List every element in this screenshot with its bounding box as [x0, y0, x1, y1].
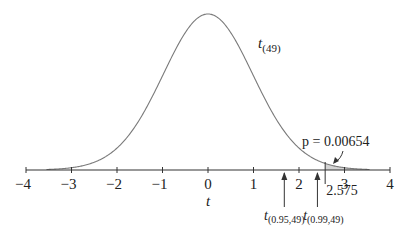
- arrowhead-icon: [314, 172, 320, 180]
- x-tick-label: 1: [250, 176, 258, 192]
- p-value-label: p = 0.00654: [302, 134, 369, 149]
- quantile-annotation-2: t(0.99,49): [303, 172, 344, 226]
- svg-text:t(0.99,49): t(0.99,49): [303, 208, 344, 226]
- critical-value-label: 2.575: [326, 183, 358, 198]
- arrowhead-icon: [281, 172, 287, 180]
- x-tick-label: −4: [15, 176, 31, 192]
- p-value-annotation: p = 0.00654: [302, 134, 369, 164]
- x-tick-label: 0: [204, 176, 212, 192]
- svg-text:t(49): t(49): [258, 35, 281, 55]
- arrowhead-icon: [333, 157, 339, 164]
- quantile-label-sub: (0.95,49): [268, 214, 305, 226]
- x-tick-label: −2: [106, 176, 122, 192]
- x-tick-label: 4: [386, 176, 394, 192]
- x-tick-label: −1: [152, 176, 168, 192]
- svg-text:t(0.95,49): t(0.95,49): [264, 208, 305, 226]
- x-axis-label: t: [206, 193, 211, 209]
- series-label-sub: (49): [262, 42, 281, 55]
- x-tick-label: 2: [295, 176, 303, 192]
- series-label: t(49): [258, 35, 281, 55]
- t-distribution-chart: −4−3−2−101234 t t(49) 2.575 p = 0.00654 …: [0, 0, 406, 240]
- quantile-label-sub: (0.99,49): [307, 214, 344, 226]
- x-tick-label: −3: [61, 176, 77, 192]
